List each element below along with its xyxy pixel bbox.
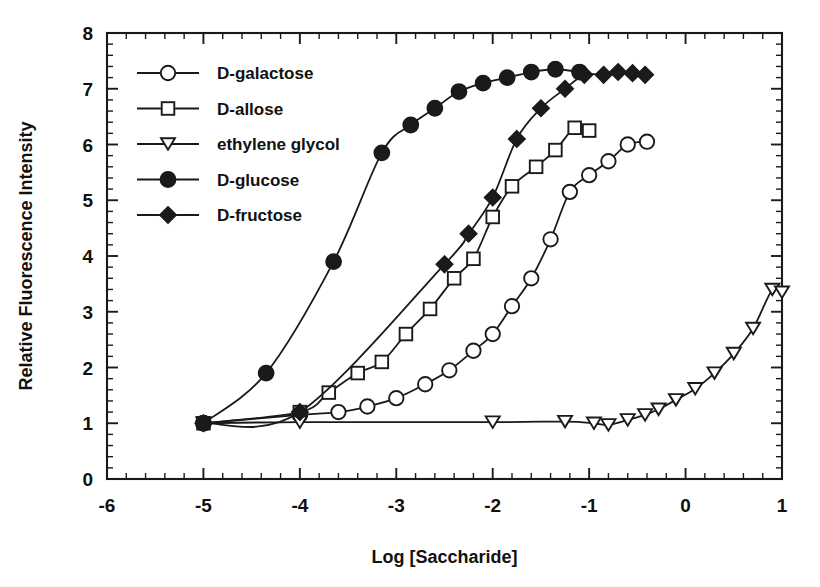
data-point-open-circle xyxy=(360,399,374,413)
y-axis-label: Relative Fluorescence Intensity xyxy=(16,121,36,390)
legend-label: D-galactose xyxy=(217,64,313,83)
x-tick-label: -3 xyxy=(388,495,405,516)
data-point-open-circle xyxy=(505,299,519,313)
data-point-open-triangle-down xyxy=(775,286,789,298)
data-point-open-square xyxy=(448,272,461,285)
legend-label: D-glucose xyxy=(217,171,299,190)
data-point-filled-circle xyxy=(548,62,563,77)
legend-label: D-fructose xyxy=(217,206,302,225)
data-point-open-circle xyxy=(640,135,654,149)
data-point-open-triangle-down xyxy=(727,348,741,360)
data-point-open-circle xyxy=(601,154,615,168)
y-tick-label: 7 xyxy=(82,79,93,100)
data-point-open-circle xyxy=(418,377,432,391)
data-point-filled-circle xyxy=(403,117,418,132)
y-tick-label: 1 xyxy=(82,413,93,434)
data-point-filled-circle xyxy=(259,365,274,380)
data-point-filled-circle xyxy=(451,84,466,99)
data-point-filled-diamond xyxy=(460,226,476,242)
data-point-open-square xyxy=(583,124,596,137)
data-point-filled-diamond xyxy=(509,131,525,147)
series-line xyxy=(203,287,782,425)
legend-item-d-allose[interactable]: D-allose xyxy=(137,100,283,119)
data-point-filled-diamond xyxy=(485,189,501,205)
legend-item-ethylene-glycol[interactable]: ethylene glycol xyxy=(137,135,340,154)
data-point-open-square xyxy=(400,328,413,341)
data-point-filled-circle xyxy=(524,64,539,79)
data-point-open-square xyxy=(549,144,562,157)
y-axis-tick-labels: 012345678 xyxy=(82,23,93,490)
data-point-filled-circle xyxy=(326,254,341,269)
x-tick-label: 0 xyxy=(680,495,691,516)
data-point-filled-diamond xyxy=(610,64,626,80)
data-point-open-square xyxy=(486,211,499,224)
legend-label: D-allose xyxy=(217,100,283,119)
data-point-open-square xyxy=(467,252,480,265)
data-point-open-square xyxy=(162,102,175,115)
data-point-filled-circle xyxy=(374,145,389,160)
data-point-open-circle xyxy=(524,271,538,285)
data-point-filled-diamond xyxy=(595,67,611,83)
legend-label: ethylene glycol xyxy=(217,135,340,154)
data-point-open-circle xyxy=(486,327,500,341)
x-tick-label: -5 xyxy=(195,495,212,516)
y-tick-label: 3 xyxy=(82,302,93,323)
data-point-open-triangle-down xyxy=(669,394,683,406)
data-series-layer xyxy=(195,62,789,432)
data-point-open-square xyxy=(351,367,364,380)
data-point-open-triangle-down xyxy=(638,409,652,421)
chart-legend: D-galactoseD-alloseethylene glycolD-gluc… xyxy=(137,64,340,225)
legend-item-d-glucose[interactable]: D-glucose xyxy=(137,171,299,190)
data-point-open-circle xyxy=(389,391,403,405)
data-point-open-square xyxy=(568,121,581,134)
data-point-open-circle xyxy=(442,363,456,377)
y-tick-label: 8 xyxy=(82,23,93,44)
figure-container: -6-5-4-3-2-101 012345678 Log [Saccharide… xyxy=(0,0,820,587)
y-tick-label: 0 xyxy=(82,469,93,490)
data-point-open-circle xyxy=(543,232,557,246)
x-tick-label: -1 xyxy=(581,495,598,516)
data-point-open-circle xyxy=(161,66,175,80)
data-point-open-square xyxy=(506,180,519,193)
y-tick-label: 4 xyxy=(82,246,93,267)
data-point-filled-diamond xyxy=(637,67,653,83)
data-point-open-circle xyxy=(331,405,345,419)
data-point-filled-circle xyxy=(160,172,175,187)
x-axis-label: Log [Saccharide] xyxy=(371,547,517,567)
data-point-open-square xyxy=(376,356,389,369)
x-tick-label: -6 xyxy=(99,495,116,516)
data-point-open-square xyxy=(424,303,437,316)
data-point-filled-circle xyxy=(500,70,515,85)
data-point-open-triangle-down xyxy=(652,404,666,416)
legend-item-d-fructose[interactable]: D-fructose xyxy=(137,206,302,225)
data-point-open-triangle-down xyxy=(746,323,760,335)
y-tick-label: 5 xyxy=(82,190,93,211)
series-ethylene-glycol xyxy=(196,284,789,431)
x-axis-tick-labels: -6-5-4-3-2-101 xyxy=(99,495,788,516)
y-tick-label: 2 xyxy=(82,358,93,379)
data-point-open-square xyxy=(530,161,543,174)
x-tick-label: -2 xyxy=(484,495,501,516)
data-point-open-circle xyxy=(563,185,577,199)
data-point-filled-circle xyxy=(475,76,490,91)
data-point-filled-circle xyxy=(427,101,442,116)
data-point-open-triangle-down xyxy=(621,414,635,426)
x-tick-label: 1 xyxy=(777,495,788,516)
data-point-filled-diamond xyxy=(160,207,176,223)
data-point-open-circle xyxy=(621,137,635,151)
data-point-open-circle xyxy=(466,344,480,358)
x-tick-label: -4 xyxy=(291,495,308,516)
chart-canvas: -6-5-4-3-2-101 012345678 Log [Saccharide… xyxy=(0,0,820,587)
data-point-open-circle xyxy=(582,168,596,182)
legend-item-d-galactose[interactable]: D-galactose xyxy=(137,64,313,83)
y-tick-label: 6 xyxy=(82,135,93,156)
